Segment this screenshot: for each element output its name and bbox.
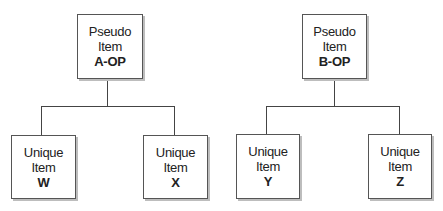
node-code: W — [37, 175, 49, 190]
diagram-canvas: Pseudo Item A-OP Unique Item W Unique It… — [0, 0, 443, 211]
node-unique-item-z: Unique Item Z — [368, 134, 432, 199]
node-code: Z — [396, 174, 404, 189]
connector-a-vertical — [107, 79, 108, 107]
node-pseudo-item-b-op: Pseudo Item B-OP — [302, 14, 367, 79]
node-code: B-OP — [319, 54, 351, 69]
node-code: A-OP — [94, 54, 126, 69]
connector-b-horizontal — [266, 106, 400, 107]
connector-a-horizontal — [41, 106, 175, 107]
node-code: X — [171, 175, 179, 190]
connector-a-right-drop — [174, 106, 175, 135]
connector-b-vertical — [334, 79, 335, 107]
connector-a-left-drop — [41, 106, 42, 135]
node-unique-item-w: Unique Item W — [11, 135, 76, 199]
node-label-line2: Item — [322, 39, 346, 54]
node-pseudo-item-a-op: Pseudo Item A-OP — [77, 14, 143, 79]
node-label-line2: Item — [163, 160, 187, 175]
node-label-line1: Pseudo — [313, 24, 355, 39]
node-label-line2: Item — [31, 160, 55, 175]
node-label-line1: Unique — [156, 145, 195, 160]
node-label-line1: Pseudo — [89, 24, 131, 39]
node-label-line2: Item — [98, 39, 122, 54]
node-label-line2: Item — [256, 159, 280, 174]
node-unique-item-x: Unique Item X — [143, 135, 208, 199]
node-code: Y — [264, 174, 272, 189]
connector-b-right-drop — [399, 106, 400, 135]
node-label-line1: Unique — [248, 144, 287, 159]
connector-b-left-drop — [266, 106, 267, 135]
node-label-line2: Item — [388, 159, 412, 174]
node-label-line1: Unique — [380, 144, 419, 159]
node-label-line1: Unique — [24, 145, 63, 160]
node-unique-item-y: Unique Item Y — [236, 134, 300, 199]
